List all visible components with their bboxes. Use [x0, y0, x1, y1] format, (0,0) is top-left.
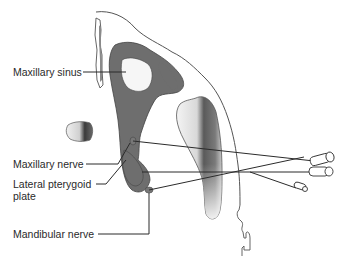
needle-short [250, 172, 296, 188]
label-maxillary-sinus: Maxillary sinus [13, 66, 82, 78]
masseter-muscle-highlight [177, 97, 222, 219]
needle-maxillary [133, 141, 314, 161]
label-lateral-pterygoid-line2: plate [13, 190, 36, 202]
mandible-outline [237, 205, 250, 256]
needles [133, 141, 314, 190]
label-mandibular-nerve: Mandibular nerve [13, 228, 94, 240]
anatomy-diagram [0, 0, 342, 263]
needle-mandibular [149, 157, 304, 190]
label-maxillary-nerve: Maxillary nerve [13, 158, 84, 170]
leader-mandibular-nerve [98, 193, 149, 234]
label-lateral-pterygoid-line1: Lateral pterygoid [13, 178, 91, 190]
zygomatic-structure [66, 122, 92, 142]
syringe-hubs [293, 151, 335, 191]
